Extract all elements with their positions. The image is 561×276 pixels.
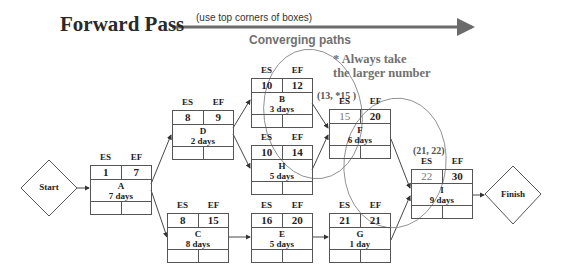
rule-note: * Always take the larger number xyxy=(333,52,431,80)
es-label: ES xyxy=(329,96,360,108)
es-label: ES xyxy=(90,152,121,164)
early-finish: 20 xyxy=(361,110,391,123)
forward-pass-diagram: Forward Pass (use top corners of boxes) … xyxy=(0,0,561,276)
edge-h-f xyxy=(312,135,328,170)
ef-label: EF xyxy=(360,96,391,108)
early-start: 10 xyxy=(252,79,283,92)
ef-label: EF xyxy=(360,200,391,212)
activity-node-f: ESEF 1520 F6 days xyxy=(329,109,391,159)
es-label: ES xyxy=(329,200,360,212)
es-ef-header: ESEF xyxy=(251,132,313,144)
early-start: 1 xyxy=(91,166,122,179)
converging-paths-label: Converging paths xyxy=(249,33,351,47)
activity-name: G xyxy=(330,229,390,239)
page-title: Forward Pass xyxy=(60,12,184,37)
es-ef-header: ESEF xyxy=(251,200,313,212)
es-ef-header: ESEF xyxy=(90,152,152,164)
activity-duration: 5 days xyxy=(252,171,312,181)
early-finish: 14 xyxy=(283,146,313,159)
activity-name: A xyxy=(91,181,151,191)
activity-name: B xyxy=(252,94,312,104)
activity-duration: 5 days xyxy=(252,239,312,249)
edge-a-d xyxy=(151,135,171,184)
early-start: 22 xyxy=(412,170,443,183)
activity-name: E xyxy=(252,229,312,239)
early-start: 10 xyxy=(252,146,283,159)
activity-duration: 7 days xyxy=(91,191,151,201)
es-label: ES xyxy=(251,132,282,144)
edge-b-f xyxy=(312,103,328,128)
activity-node-c: ESEF 815 C8 days xyxy=(167,213,229,263)
early-finish: 7 xyxy=(122,166,152,179)
activity-node-b: ESEF 1012 B3 days xyxy=(251,78,313,128)
early-finish: 15 xyxy=(199,214,229,227)
early-finish: 21 xyxy=(361,214,391,227)
early-finish: 20 xyxy=(283,214,313,227)
early-start: 15 xyxy=(330,110,361,123)
finish-label: Finish xyxy=(485,189,541,199)
activity-duration: 3 days xyxy=(252,104,312,114)
ef-label: EF xyxy=(442,156,473,168)
es-label: ES xyxy=(167,200,198,212)
es-label: ES xyxy=(411,156,442,168)
rule-line-2: the larger number xyxy=(333,66,431,80)
es-label: ES xyxy=(172,97,203,109)
activity-name: I xyxy=(412,185,472,195)
edge-d-h xyxy=(233,134,250,168)
rule-line-1: * Always take xyxy=(333,52,431,66)
activity-node-i: ESEF 2230 I9 days xyxy=(411,169,473,219)
activity-node-a: ESEF 17 A7 days xyxy=(90,165,152,215)
ef-label: EF xyxy=(203,97,234,109)
early-finish: 9 xyxy=(204,111,234,124)
activity-duration: 9 days xyxy=(412,195,472,205)
activity-name: H xyxy=(252,161,312,171)
activity-node-e: ESEF 1620 E5 days xyxy=(251,213,313,263)
es-label: ES xyxy=(251,65,282,77)
es-ef-header: ESEF xyxy=(329,200,391,212)
activity-duration: 6 days xyxy=(330,135,390,145)
early-finish: 12 xyxy=(283,79,313,92)
activity-duration: 8 days xyxy=(168,239,228,249)
early-start: 16 xyxy=(252,214,283,227)
activity-duration: 1 day xyxy=(330,239,390,249)
edge-f-i xyxy=(391,139,410,188)
activity-duration: 2 days xyxy=(173,136,233,146)
activity-node-h: ESEF 1014 H5 days xyxy=(251,145,313,195)
activity-name: F xyxy=(330,125,390,135)
ef-label: EF xyxy=(121,152,152,164)
es-ef-header: ESEF xyxy=(167,200,229,212)
es-ef-header: ESEF xyxy=(411,156,473,168)
early-finish: 30 xyxy=(443,170,473,183)
es-ef-header: ESEF xyxy=(251,65,313,77)
es-ef-header: ESEF xyxy=(329,96,391,108)
edge-g-i xyxy=(391,196,410,240)
es-label: ES xyxy=(251,200,282,212)
ef-label: EF xyxy=(282,65,313,77)
activity-name: C xyxy=(168,229,228,239)
edge-d-b xyxy=(233,100,250,128)
activity-node-d: ESEF 89 D2 days xyxy=(172,110,234,160)
es-ef-header: ESEF xyxy=(172,97,234,109)
early-start: 8 xyxy=(168,214,199,227)
converge-annotation-i: (21, 22) xyxy=(413,145,445,156)
early-start: 21 xyxy=(330,214,361,227)
ef-label: EF xyxy=(282,132,313,144)
activity-node-g: ESEF 2121 G1 day xyxy=(329,213,391,263)
early-start: 8 xyxy=(173,111,204,124)
edge-a-c xyxy=(151,190,167,237)
start-label: Start xyxy=(21,182,77,192)
activity-name: D xyxy=(173,126,233,136)
ef-label: EF xyxy=(282,200,313,212)
ef-label: EF xyxy=(198,200,229,212)
arrow-note: (use top corners of boxes) xyxy=(196,12,312,23)
